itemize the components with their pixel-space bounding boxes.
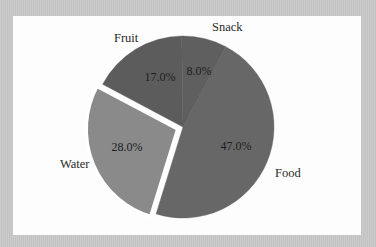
pct-water: 28.0% [112,140,143,154]
pct-snack: 8.0% [187,64,212,78]
pct-food: 47.0% [221,139,252,153]
label-snack: Snack [212,20,243,34]
label-fruit: Fruit [114,31,139,45]
pie-chart: Food Water Fruit Snack 47.0% 28.0% 17.0%… [0,0,376,247]
pct-fruit: 17.0% [145,70,176,84]
label-food: Food [275,166,301,180]
pie-slices [86,36,274,218]
label-water: Water [60,157,90,171]
